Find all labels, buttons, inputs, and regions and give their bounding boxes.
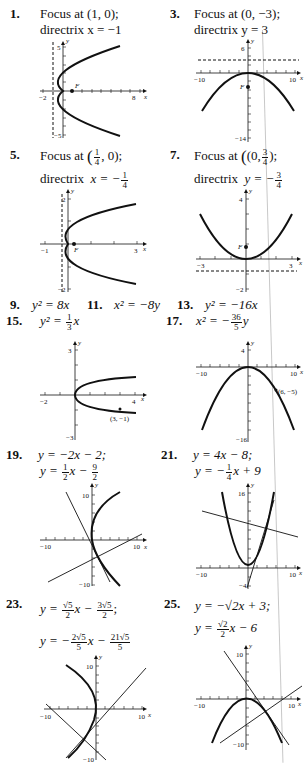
- y-tick-label: −10: [83, 756, 94, 763]
- problem-17-number: 17.: [166, 313, 182, 329]
- y-axis-label: y: [248, 187, 253, 195]
- x-axis-label: x: [143, 93, 148, 101]
- x-tick-label: 10: [288, 702, 296, 710]
- point-label: (6, −5): [278, 388, 298, 396]
- x-axis-label: x: [143, 543, 148, 551]
- problem-9-equation: y² = 8x: [32, 297, 69, 313]
- x-tick-label: −10: [194, 702, 205, 710]
- problem-19-graph: −10 10 x 10 −10 y: [0, 440, 154, 590]
- y-tick-label: −10: [233, 741, 244, 749]
- y-tick-label: 3: [68, 347, 72, 355]
- problem-1-graph: −2 8 x 5 −5 y F: [0, 0, 154, 150]
- y-tick-label: 4: [239, 196, 243, 204]
- y-axis-label: y: [70, 187, 75, 195]
- x-tick-label: 8: [132, 94, 136, 102]
- x-tick-label: 3: [289, 262, 293, 270]
- problem-17-graph: −10 10 x 4 −16 y (6, −5): [154, 330, 307, 440]
- y-tick-label: −5: [54, 132, 62, 140]
- x-tick-label: −10: [196, 571, 207, 579]
- y-axis-label: y: [250, 339, 255, 347]
- x-axis-label: x: [299, 74, 304, 82]
- y-axis-label: y: [250, 481, 255, 489]
- x-tick-label: 10: [133, 543, 141, 551]
- x-tick-label: −10: [40, 543, 51, 551]
- problem-11-equation: x² = −8y: [114, 297, 160, 313]
- y-axis-label: y: [248, 642, 253, 650]
- x-axis-label: x: [299, 368, 304, 376]
- focus-label: F: [237, 243, 243, 251]
- problem-13-number: 13.: [177, 297, 193, 313]
- focus-label: F: [239, 83, 245, 91]
- y-tick-label: −2: [58, 286, 66, 294]
- y-axis-label: y: [98, 653, 103, 661]
- x-tick-label: −3: [197, 262, 205, 270]
- problem-11-number: 11.: [87, 297, 103, 313]
- x-tick-label: 3: [134, 247, 138, 255]
- x-axis-label: x: [147, 711, 152, 719]
- problem-5-graph: −1 3 x 2 −2 y F: [0, 150, 154, 300]
- y-axis-label: y: [65, 37, 70, 45]
- y-tick-label: 4: [241, 347, 245, 355]
- x-tick-label: −10: [40, 713, 51, 721]
- problem-15-number: 15.: [6, 313, 22, 329]
- x-tick-label: −1: [41, 247, 49, 255]
- x-tick-label: 10: [289, 76, 297, 84]
- x-tick-label: 10: [138, 713, 146, 721]
- y-tick-label: 2: [62, 196, 66, 204]
- x-tick-label: −10: [196, 370, 207, 378]
- y-tick-label: 6: [241, 45, 245, 53]
- x-axis-label: x: [298, 259, 303, 267]
- x-tick-label: 10: [289, 571, 297, 579]
- y-tick-label: −2: [236, 286, 244, 294]
- y-tick-label: 10: [236, 651, 244, 659]
- y-tick-label: −4: [239, 582, 247, 590]
- problem-13-equation: y² = −16x: [205, 297, 257, 313]
- problem-9-number: 9.: [10, 297, 20, 313]
- problem-15-graph: −2 4 x 3 −3 y (3, −1): [0, 330, 154, 440]
- x-axis-label: x: [298, 569, 303, 577]
- focus-label: F: [74, 82, 80, 90]
- y-tick-label: 10: [86, 663, 94, 671]
- problem-21-graph: −10 10 x 16 −4 y: [154, 440, 307, 590]
- x-tick-label: −2: [40, 398, 48, 406]
- y-tick-label: −10: [79, 581, 90, 589]
- problem-7-graph: −3 3 x 4 −2 y F: [154, 150, 307, 300]
- problem-25-graph: −10 10 x 10 −10 y: [154, 590, 307, 763]
- y-tick-label: −14: [235, 135, 246, 143]
- y-axis-label: y: [250, 37, 255, 45]
- x-tick-label: −10: [194, 76, 205, 84]
- problem-3-graph: −10 10 x 6 −14 y F: [154, 0, 307, 150]
- x-axis-label: x: [297, 700, 302, 708]
- y-axis-label: y: [77, 339, 82, 347]
- x-tick-label: 10: [290, 370, 298, 378]
- y-tick-label: 10: [82, 492, 90, 500]
- y-tick-label: 5: [57, 44, 61, 52]
- problem-23-graph: −10 10 x 10 −10 y: [0, 590, 154, 763]
- point-label: (3, −1): [110, 415, 130, 423]
- x-tick-label: 4: [132, 398, 136, 406]
- focus-label: F: [73, 246, 79, 254]
- x-axis-label: x: [142, 245, 147, 253]
- x-tick-label: −2: [39, 94, 47, 102]
- y-axis-label: y: [94, 481, 99, 489]
- y-tick-label: 16: [238, 490, 246, 498]
